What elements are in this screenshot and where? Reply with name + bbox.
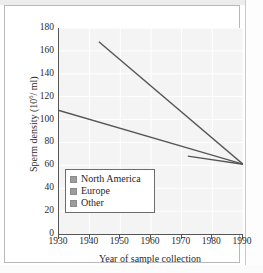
figure-frame: 020406080100120140160180 193019401950196… xyxy=(4,5,240,263)
y-axis-title: Sperm density (106/ ml) xyxy=(27,44,39,204)
scan-artifact-bottom xyxy=(0,265,263,273)
x-axis-tick-label: 1940 xyxy=(79,237,98,247)
legend-swatch-icon xyxy=(70,188,77,195)
x-axis-tick-label: 1980 xyxy=(202,237,221,247)
x-axis-tick-labels: 1930194019501960197019801990 xyxy=(58,237,242,251)
scan-artifact-right xyxy=(245,0,263,273)
legend-item-label: North America xyxy=(81,174,141,184)
y-axis-title-main: Sperm density (10 xyxy=(28,99,39,172)
figure-page: 020406080100120140160180 193019401950196… xyxy=(0,0,263,273)
x-axis-tick-label: 1970 xyxy=(171,237,190,247)
legend-swatch-icon xyxy=(70,200,77,207)
y-axis-title-exponent: 6 xyxy=(27,95,34,98)
y-axis-tick-label: 20 xyxy=(25,206,54,216)
x-axis-title: Year of sample collection xyxy=(58,253,242,264)
legend-item: North America xyxy=(70,173,150,185)
legend: North AmericaEuropeOther xyxy=(65,169,155,213)
x-axis-tick-label: 1990 xyxy=(233,237,252,247)
legend-item: Other xyxy=(70,197,150,209)
scan-rule-right xyxy=(245,0,246,273)
x-axis-tick-label: 1930 xyxy=(49,237,68,247)
x-axis-tick-label: 1950 xyxy=(110,237,129,247)
legend-item-label: Europe xyxy=(81,186,110,196)
y-axis-title-tail: / ml) xyxy=(28,76,39,95)
legend-item-label: Other xyxy=(81,198,104,208)
y-axis-tick-label: 180 xyxy=(25,23,54,33)
x-axis-tick-label: 1960 xyxy=(141,237,160,247)
legend-swatch-icon xyxy=(70,176,77,183)
legend-item: Europe xyxy=(70,185,150,197)
